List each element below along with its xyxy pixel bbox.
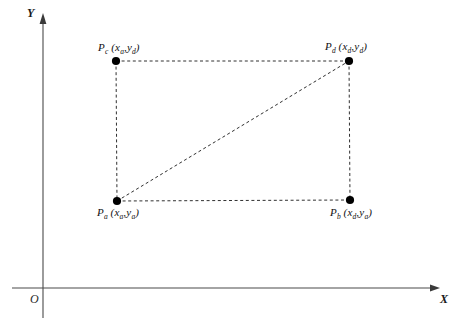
y-axis-arrowhead <box>40 13 47 24</box>
point-label-pb-x: x <box>348 206 353 218</box>
point-label-pb-close-paren: ) <box>368 206 372 218</box>
point-label-pd-name-sub: d <box>332 46 336 55</box>
point-label-pb-name-sub: b <box>337 212 341 221</box>
point-label-pb-y-sub: a <box>364 212 368 221</box>
y-axis-label-text: Y <box>27 6 34 20</box>
origin-label-text: O <box>30 292 39 306</box>
edge-left-pc-pa <box>116 61 117 201</box>
point-marker-pd <box>345 57 353 65</box>
edge-bottom-pa-pb <box>117 200 350 201</box>
x-axis-label-text: X <box>440 292 448 306</box>
point-label-pd-y-sub: d <box>359 46 363 55</box>
point-label-pd: Pd (xd,yd) <box>325 40 367 52</box>
y-axis-label: Y <box>27 6 34 21</box>
point-label-pc-name: P <box>98 41 105 53</box>
point-marker-pb <box>346 196 354 204</box>
point-marker-pa <box>113 197 121 205</box>
point-label-pa-name: P <box>97 206 104 218</box>
coordinate-diagram-svg <box>0 0 469 325</box>
point-label-pc-x-sub: a <box>120 47 124 56</box>
point-label-pd-name: P <box>325 40 332 52</box>
point-label-pb-open-paren: ( <box>341 206 348 218</box>
point-label-pd-open-paren: ( <box>336 40 343 52</box>
edge-right-pd-pb <box>349 61 350 200</box>
point-label-pa-open-paren: ( <box>108 206 115 218</box>
point-label-pb-x-sub: d <box>353 212 357 221</box>
point-label-pc-name-sub: c <box>105 47 108 56</box>
diagram-canvas: Y X O Pc (xa,yd) Pd (xd,yd) Pa (xa,ya) P… <box>0 0 469 325</box>
point-label-pa-name-sub: a <box>104 212 108 221</box>
point-label-pd-x-sub: d <box>348 46 352 55</box>
point-label-pa-y-sub: a <box>131 212 135 221</box>
x-axis-arrowhead <box>430 285 440 292</box>
point-label-pc-y-sub: d <box>132 47 136 56</box>
point-label-pd-x: x <box>343 40 348 52</box>
point-label-pb: Pb (xd,ya) <box>330 206 372 218</box>
point-label-pd-close-paren: ) <box>363 40 367 52</box>
point-marker-pc <box>112 57 120 65</box>
edge-diagonal-pa-pd <box>117 61 349 201</box>
x-axis-label: X <box>440 292 448 307</box>
point-label-pc-close-paren: ) <box>136 41 140 53</box>
point-label-pb-name: P <box>330 206 337 218</box>
point-label-pa-close-paren: ) <box>135 206 139 218</box>
point-label-pa-x: x <box>115 206 120 218</box>
point-label-pa: Pa (xa,ya) <box>97 206 139 218</box>
point-label-pc: Pc (xa,yd) <box>98 41 140 53</box>
point-label-pa-x-sub: a <box>120 212 124 221</box>
origin-label: O <box>30 292 39 307</box>
